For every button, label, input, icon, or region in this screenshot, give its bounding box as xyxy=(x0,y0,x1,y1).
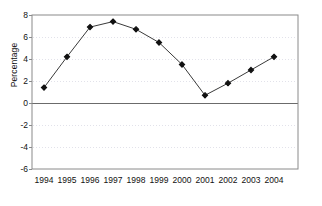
data-point-marker xyxy=(225,81,230,86)
chart-container: Percentage 8 6 4 2 0 -2 -4 -6 1994 1995 … xyxy=(0,0,322,206)
data-point-marker xyxy=(271,54,276,59)
plot-area xyxy=(0,0,322,206)
data-point-marker xyxy=(248,67,253,72)
data-point-markers xyxy=(41,19,276,98)
gridlines xyxy=(33,38,297,148)
data-line-series xyxy=(44,22,274,96)
data-point-marker xyxy=(110,19,115,24)
data-point-marker xyxy=(133,27,138,32)
plot-frame xyxy=(32,15,298,169)
